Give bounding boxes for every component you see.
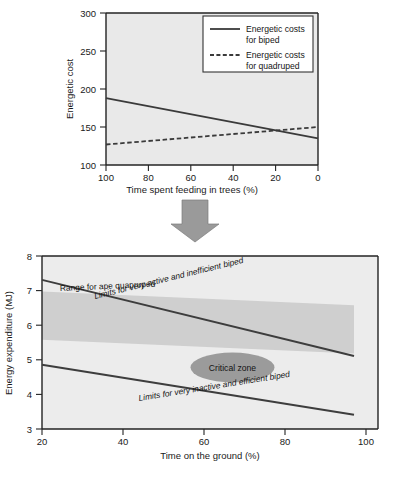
top-ytick-label-2: 200 [80,84,96,95]
bottom-ytick-label-3: 6 [27,320,32,331]
bottom-ytick-label-4: 7 [27,285,32,296]
connector-arrow-svg [0,196,394,246]
bottom-xtick-label-4: 100 [358,436,374,447]
top-x-axis-title: Time spent feeding in trees (%) [126,184,258,195]
top-chart-legend: Energetic costs for biped Energetic cost… [203,16,313,72]
bottom-xtick-label-3: 80 [280,436,291,447]
bottom-xtick-label-1: 40 [118,436,129,447]
critical-zone-label: Critical zone [209,363,257,373]
bottom-ytick-label-1: 4 [27,389,32,400]
bottom-ytick-label-0: 3 [27,424,32,435]
down-arrow-icon [171,200,219,242]
top-ytick-label-4: 300 [80,8,96,19]
legend-label-quadruped-line2: for quadruped [246,61,300,71]
top-xtick-label-2: 60 [186,172,197,183]
bottom-xtick-label-2: 60 [199,436,210,447]
bottom-y-ticks [36,256,42,429]
bottom-y-axis-title: Energy expenditure (MJ) [3,291,14,395]
bottom-ytick-label-2: 5 [27,354,32,365]
figure-container: 100 150 200 250 300 100 80 60 40 20 0 Ti… [0,0,394,484]
bottom-chart-svg: 3 4 5 6 7 8 20 40 60 80 100 Time on the … [0,246,394,484]
top-y-ticks [100,13,106,165]
top-x-ticks [106,165,318,171]
top-chart-svg: 100 150 200 250 300 100 80 60 40 20 0 Ti… [0,0,394,196]
top-ytick-label-0: 100 [80,160,96,171]
bottom-chart: 3 4 5 6 7 8 20 40 60 80 100 Time on the … [0,246,394,484]
top-y-axis-title: Energetic cost [64,59,75,120]
legend-label-biped-line2: for biped [246,35,280,45]
top-xtick-label-5: 0 [315,172,320,183]
bottom-xtick-label-0: 20 [37,436,48,447]
legend-label-biped-line1: Energetic costs [246,24,305,34]
bottom-x-ticks [42,429,366,435]
top-ytick-label-3: 250 [80,46,96,57]
top-xtick-label-4: 20 [270,172,281,183]
connector-arrow-container [0,196,394,246]
top-ytick-label-1: 150 [80,122,96,133]
top-xtick-label-3: 40 [228,172,239,183]
top-chart: 100 150 200 250 300 100 80 60 40 20 0 Ti… [0,0,394,196]
top-xtick-label-0: 100 [98,172,114,183]
bottom-ytick-label-5: 8 [27,251,32,262]
bottom-x-axis-title: Time on the ground (%) [160,450,259,461]
top-xtick-label-1: 80 [143,172,154,183]
legend-label-quadruped-line1: Energetic costs [246,50,305,60]
